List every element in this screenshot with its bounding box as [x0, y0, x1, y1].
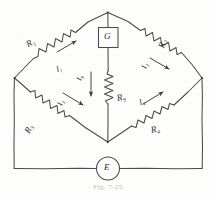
resistor-label-Rg: R₉	[116, 92, 126, 103]
resistor-R1-zigzag	[34, 30, 76, 59]
wire-r2-lower	[182, 53, 203, 79]
wire-r1-lower	[15, 59, 34, 79]
arrow-I1	[57, 41, 76, 52]
galvanometer-label: G	[104, 32, 111, 41]
wire-r4-lower	[108, 126, 132, 142]
wire-bottom-left	[14, 168, 96, 169]
arm-upper-right	[108, 13, 202, 79]
node-right	[201, 77, 203, 79]
node-top	[107, 11, 109, 13]
node-bottom	[107, 141, 109, 143]
wire-right-rail	[202, 78, 203, 168]
wire-r4-upper	[174, 78, 202, 105]
arrow-I3	[63, 93, 83, 105]
current-arrows	[57, 41, 169, 105]
wire-r3-upper	[15, 78, 31, 92]
arrow-I4	[143, 92, 163, 104]
resistor-label-R4: R₄	[150, 124, 160, 135]
wire-r3-lower	[70, 116, 108, 143]
wire-left-rail	[14, 78, 15, 169]
resistor-Rg-zigzag	[105, 71, 114, 105]
arrow-I2	[150, 58, 169, 69]
wire-bottom-right	[120, 168, 202, 169]
source-label: E	[104, 163, 110, 172]
figure-caption: Fig. 7-25	[0, 183, 216, 191]
node-left	[13, 77, 15, 79]
figure-root: R₁ R₂ R₃ R₄ R₉ I₁ I₂ I₃ I₄ I₉ G E Fig. 7…	[0, 0, 216, 199]
